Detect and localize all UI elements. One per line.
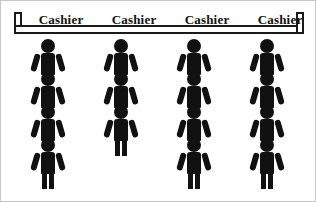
- person-arm-right-icon: [201, 86, 212, 105]
- person-arm-right-icon: [201, 53, 212, 72]
- person-arm-right-icon: [201, 119, 212, 138]
- person-head-icon: [114, 39, 128, 53]
- person-icon: [99, 72, 143, 105]
- person-icon: [99, 39, 143, 72]
- queue-cashier-4: [245, 39, 289, 190]
- person-icon: [26, 72, 70, 105]
- person-arm-right-icon: [201, 152, 212, 171]
- person-arm-left-icon: [30, 152, 41, 171]
- person-head-icon: [187, 138, 201, 152]
- person-head-icon: [41, 39, 55, 53]
- person-icon: [99, 105, 143, 157]
- person-arm-left-icon: [30, 86, 41, 105]
- person-arm-left-icon: [249, 119, 260, 138]
- person-icon: [245, 72, 289, 105]
- person-icon: [26, 105, 70, 138]
- person-arm-right-icon: [128, 86, 139, 105]
- person-arm-left-icon: [249, 53, 260, 72]
- person-arm-right-icon: [55, 152, 66, 171]
- person-icon: [245, 138, 289, 190]
- person-leg-left-icon: [261, 171, 266, 189]
- person-arm-left-icon: [103, 53, 114, 72]
- person-head-icon: [114, 105, 128, 119]
- person-icon: [245, 39, 289, 72]
- person-head-icon: [41, 138, 55, 152]
- person-head-icon: [187, 105, 201, 119]
- person-head-icon: [260, 138, 274, 152]
- person-arm-right-icon: [274, 53, 285, 72]
- person-arm-right-icon: [274, 119, 285, 138]
- person-head-icon: [41, 105, 55, 119]
- queue-cashier-2: [99, 39, 143, 157]
- person-leg-right-icon: [49, 171, 54, 189]
- person-arm-right-icon: [274, 86, 285, 105]
- person-arm-left-icon: [249, 86, 260, 105]
- person-icon: [172, 105, 216, 138]
- person-head-icon: [260, 39, 274, 53]
- person-arm-left-icon: [103, 119, 114, 138]
- person-arm-left-icon: [30, 53, 41, 72]
- person-icon: [245, 105, 289, 138]
- person-leg-left-icon: [188, 171, 193, 189]
- person-head-icon: [187, 39, 201, 53]
- person-arm-left-icon: [30, 119, 41, 138]
- person-icon: [172, 39, 216, 72]
- person-head-icon: [187, 72, 201, 86]
- person-leg-right-icon: [195, 171, 200, 189]
- person-arm-right-icon: [128, 119, 139, 138]
- person-head-icon: [260, 72, 274, 86]
- person-arm-right-icon: [55, 86, 66, 105]
- person-head-icon: [114, 72, 128, 86]
- cashier-label-4: Cashier: [237, 13, 316, 26]
- queue-cashier-1: [26, 39, 70, 190]
- person-arm-right-icon: [128, 53, 139, 72]
- person-icon: [172, 72, 216, 105]
- person-arm-left-icon: [176, 119, 187, 138]
- person-arm-right-icon: [55, 53, 66, 72]
- person-icon: [172, 138, 216, 190]
- person-leg-right-icon: [122, 138, 127, 156]
- cashier-queue-diagram: Cashier Cashier Cashier Cashier: [0, 0, 316, 202]
- person-icon: [26, 138, 70, 190]
- person-arm-left-icon: [249, 152, 260, 171]
- person-arm-left-icon: [103, 86, 114, 105]
- person-icon: [26, 39, 70, 72]
- queue-cashier-3: [172, 39, 216, 190]
- person-leg-left-icon: [42, 171, 47, 189]
- person-arm-right-icon: [55, 119, 66, 138]
- person-head-icon: [260, 105, 274, 119]
- person-arm-left-icon: [176, 152, 187, 171]
- person-arm-left-icon: [176, 86, 187, 105]
- person-leg-right-icon: [268, 171, 273, 189]
- person-arm-right-icon: [274, 152, 285, 171]
- person-arm-left-icon: [176, 53, 187, 72]
- person-head-icon: [41, 72, 55, 86]
- person-leg-left-icon: [115, 138, 120, 156]
